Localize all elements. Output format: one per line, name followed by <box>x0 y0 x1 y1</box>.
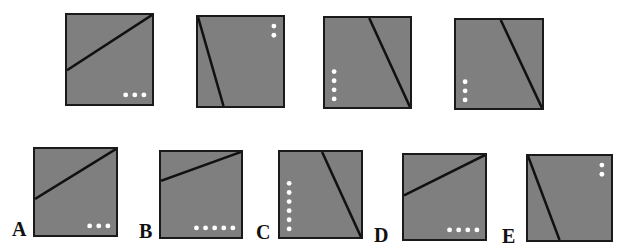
dot <box>271 33 276 38</box>
dot <box>96 223 101 228</box>
dot <box>456 227 461 232</box>
dot <box>221 225 226 230</box>
answer-label-c: C <box>256 221 270 244</box>
question-panel-1 <box>65 13 154 106</box>
panel-graphic <box>35 149 116 235</box>
diagonal-line <box>404 155 485 195</box>
question-panel-4 <box>454 18 544 110</box>
dot <box>599 172 604 177</box>
dot <box>123 92 128 97</box>
dot <box>105 223 110 228</box>
answer-option-e[interactable] <box>526 154 613 242</box>
answer-option-a[interactable] <box>33 147 118 237</box>
dot <box>132 92 137 97</box>
panel-graphic <box>67 15 152 104</box>
dot <box>463 79 468 84</box>
diagonal-line <box>369 18 410 107</box>
dot <box>203 225 208 230</box>
dot <box>463 97 468 102</box>
panel-graphic <box>325 18 410 107</box>
dot <box>465 227 470 232</box>
answer-option-c[interactable] <box>278 150 363 239</box>
dot <box>463 88 468 93</box>
dot <box>87 223 92 228</box>
dot <box>287 181 292 186</box>
diagonal-line <box>322 152 361 237</box>
dot <box>230 225 235 230</box>
panel-graphic <box>456 20 542 108</box>
dot <box>287 226 292 231</box>
diagonal-line <box>67 15 152 70</box>
answer-label-d: D <box>374 224 388 247</box>
dot <box>332 96 337 101</box>
dot <box>332 78 337 83</box>
dot <box>447 227 452 232</box>
panel-graphic <box>404 155 485 239</box>
dot <box>287 217 292 222</box>
dot <box>287 199 292 204</box>
dot <box>271 24 276 29</box>
diagonal-line <box>161 152 241 181</box>
diagonal-line <box>35 149 116 199</box>
answer-option-d[interactable] <box>402 153 487 241</box>
answer-label-b: B <box>139 220 152 243</box>
diagonal-line <box>528 156 560 240</box>
diagonal-line <box>501 20 542 108</box>
panel-graphic <box>280 152 361 237</box>
dot <box>287 190 292 195</box>
panel-graphic <box>161 152 241 237</box>
dot <box>599 163 604 168</box>
dot <box>194 225 199 230</box>
diagonal-line <box>198 17 223 106</box>
panel-graphic <box>528 156 611 240</box>
question-panel-3 <box>323 16 412 109</box>
question-panel-2 <box>196 15 285 108</box>
dot <box>212 225 217 230</box>
dot <box>474 227 479 232</box>
dot <box>332 69 337 74</box>
answer-label-a: A <box>12 218 26 241</box>
dot <box>141 92 146 97</box>
panel-graphic <box>198 17 283 106</box>
dot <box>332 87 337 92</box>
answer-option-b[interactable] <box>159 150 243 239</box>
answer-label-e: E <box>502 225 515 248</box>
dot <box>287 208 292 213</box>
